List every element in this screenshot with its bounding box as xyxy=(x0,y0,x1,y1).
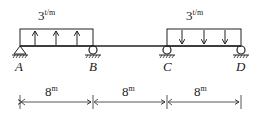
support-label-a: A xyxy=(14,59,23,74)
roller-support-d xyxy=(233,46,249,58)
load-label-cd: 3t/m xyxy=(186,8,204,23)
pin-support-a xyxy=(12,46,28,58)
load-label-ab: 3t/m xyxy=(38,8,56,23)
support-label-b: B xyxy=(89,59,97,74)
dimension-label-ab: 8m xyxy=(45,84,59,99)
support-label-d: D xyxy=(235,59,246,74)
distributed-load-ab xyxy=(20,29,93,46)
roller-support-c xyxy=(159,46,175,58)
roller-support-b xyxy=(85,46,101,58)
support-label-c: C xyxy=(163,59,172,74)
dimension-label-cd: 8m xyxy=(194,84,208,99)
beam-diagram: 3t/m 3t/m A B C D xyxy=(0,0,265,127)
dimension-line xyxy=(20,95,241,109)
dimension-label-bc: 8m xyxy=(122,84,136,99)
distributed-load-cd xyxy=(167,29,241,46)
